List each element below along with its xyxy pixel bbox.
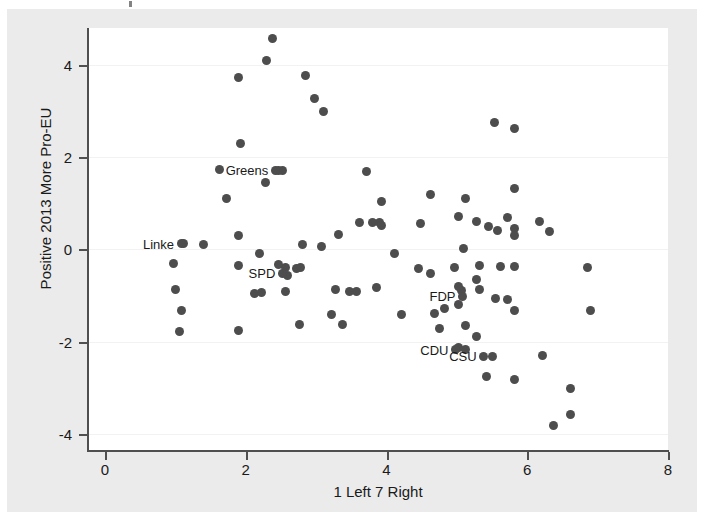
scatter-point — [583, 263, 592, 272]
scatter-point-labeled — [479, 352, 488, 361]
scatter-point — [491, 294, 500, 303]
scatter-point — [488, 352, 497, 361]
x-tick-mark — [387, 452, 389, 460]
scatter-point — [440, 304, 449, 313]
y-axis-line — [87, 28, 89, 451]
scatter-point — [268, 34, 277, 43]
scatter-point — [450, 263, 459, 272]
scatter-point — [298, 240, 307, 249]
scatter-point — [475, 285, 484, 294]
scatter-point — [414, 264, 423, 273]
x-tick-label: 6 — [507, 462, 547, 477]
x-tick-label: 2 — [226, 462, 266, 477]
scatter-point — [454, 212, 463, 221]
scatter-point — [234, 73, 243, 82]
scatter-point — [301, 71, 310, 80]
scatter-point-labeled — [271, 166, 280, 175]
scatter-point — [535, 217, 544, 226]
scatter-point — [296, 263, 305, 272]
scatter-point — [175, 327, 184, 336]
point-label-cdu: CDU — [420, 344, 448, 357]
y-axis-title: Positive 2013 More Pro-EU — [37, 49, 54, 349]
scatter-point — [459, 244, 468, 253]
scatter-point — [435, 324, 444, 333]
y-tick-mark — [79, 342, 87, 344]
scatter-point — [496, 262, 505, 271]
scatter-point — [352, 287, 361, 296]
x-axis-title: 1 Left 7 Right — [88, 483, 668, 500]
scatter-point — [377, 221, 386, 230]
scatter-point — [426, 269, 435, 278]
scatter-point — [510, 306, 519, 315]
scatter-point — [310, 94, 319, 103]
scatter-point — [472, 332, 481, 341]
x-tick-label: 0 — [85, 462, 125, 477]
y-tick-mark — [79, 434, 87, 436]
point-label-linke: Linke — [143, 238, 174, 251]
scatter-point — [255, 249, 264, 258]
x-axis-line — [87, 450, 669, 452]
gridline-y — [88, 342, 668, 343]
scatter-point — [566, 384, 575, 393]
point-label-greens: Greens — [226, 164, 269, 177]
scatter-point — [377, 197, 386, 206]
scatter-point — [362, 167, 371, 176]
scatter-point — [281, 287, 290, 296]
x-tick-label: 8 — [648, 462, 688, 477]
scatter-point — [482, 372, 491, 381]
gridline-y — [88, 65, 668, 66]
x-tick-mark — [527, 452, 529, 460]
scatter-point — [510, 375, 519, 384]
scatter-point — [430, 309, 439, 318]
scatter-point — [510, 231, 519, 240]
scatter-point — [416, 219, 425, 228]
scatter-point — [475, 261, 484, 270]
scatter-point — [331, 285, 340, 294]
y-tick-label: -4 — [42, 427, 72, 442]
scatter-point — [215, 165, 224, 174]
scatter-point — [545, 227, 554, 236]
scatter-point — [472, 217, 481, 226]
gridline-y — [88, 249, 668, 250]
scatter-point — [484, 222, 493, 231]
y-tick-mark — [79, 65, 87, 67]
scatter-point — [586, 306, 595, 315]
scatter-point — [199, 240, 208, 249]
scatter-point — [510, 184, 519, 193]
scatter-point — [490, 118, 499, 127]
scatter-point — [222, 194, 231, 203]
scatter-point — [334, 230, 343, 239]
scatter-point — [503, 295, 512, 304]
scatter-point — [261, 178, 270, 187]
x-tick-mark — [105, 452, 107, 460]
scatter-point — [372, 283, 381, 292]
scatter-point — [234, 231, 243, 240]
point-label-fdp: FDP — [430, 290, 456, 303]
scatter-point — [461, 194, 470, 203]
scatter-point — [171, 285, 180, 294]
scatter-point — [472, 275, 481, 284]
y-tick-mark — [79, 157, 87, 159]
scatter-point — [566, 410, 575, 419]
scatter-point — [510, 262, 519, 271]
scatter-point-labeled — [278, 269, 287, 278]
scatter-point — [493, 226, 502, 235]
gridline-y — [88, 157, 668, 158]
scatter-point — [390, 249, 399, 258]
scatter-point-labeled — [458, 292, 467, 301]
plot-area: GreensLinkeSPDFDPCDUCSU — [88, 28, 668, 450]
figure-root: GreensLinkeSPDFDPCDUCSU -4-2024 02468 Po… — [0, 0, 705, 524]
scatter-point — [257, 288, 266, 297]
scatter-point — [397, 310, 406, 319]
x-tick-mark — [246, 452, 248, 460]
scatter-point-labeled — [177, 239, 186, 248]
scatter-point — [234, 326, 243, 335]
scatter-point — [327, 310, 336, 319]
scatter-point — [355, 218, 364, 227]
x-tick-label: 4 — [367, 462, 407, 477]
point-label-csu: CSU — [449, 350, 476, 363]
scatter-point — [177, 306, 186, 315]
scan-artifact-speck — [129, 1, 132, 7]
scatter-point — [295, 320, 304, 329]
y-tick-mark — [79, 249, 87, 251]
